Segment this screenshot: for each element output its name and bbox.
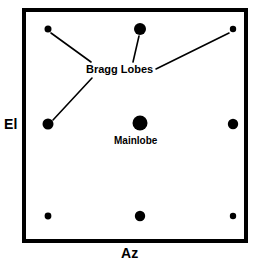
- mainlobe-annotation: Mainlobe: [114, 136, 157, 146]
- lobe-bottom-center: [135, 211, 145, 221]
- lobe-mid-right: [228, 119, 238, 129]
- elevation-axis-label: El: [4, 117, 18, 131]
- azimuth-axis-label: Az: [121, 246, 139, 260]
- bragg-lobe-diagram: [0, 0, 260, 265]
- lobe-top-center: [134, 23, 146, 35]
- lobe-bottom-left: [45, 213, 52, 220]
- lobe-bottom-right: [230, 213, 236, 219]
- bragg-lobes-annotation: Bragg Lobes: [86, 64, 153, 75]
- lobe-top-left: [45, 26, 52, 33]
- mainlobe-dot: [133, 116, 148, 131]
- antenna-pattern-figure: El Az Bragg Lobes Mainlobe: [0, 0, 260, 265]
- lobe-top-right: [230, 26, 236, 32]
- lobe-mid-left: [43, 119, 54, 130]
